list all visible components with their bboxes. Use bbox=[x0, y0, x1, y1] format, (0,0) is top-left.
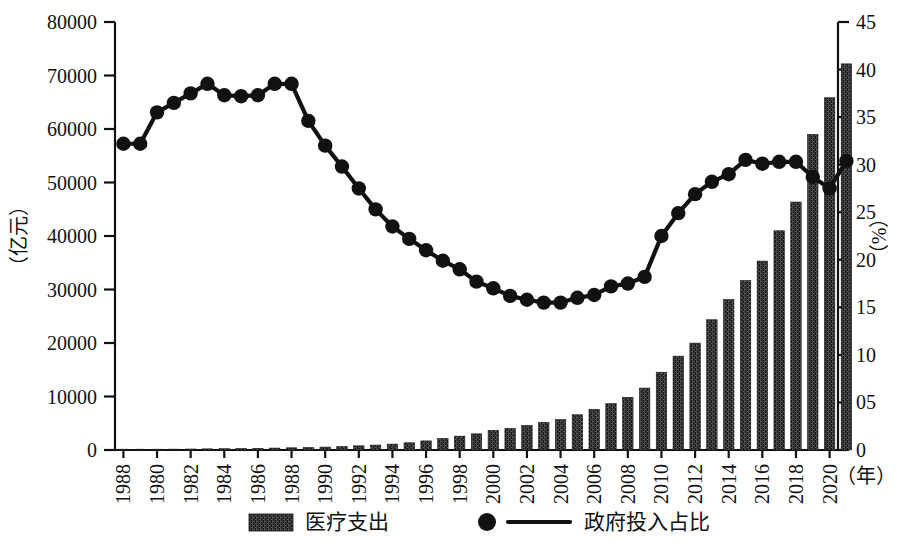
x-tick-label: 2004 bbox=[550, 464, 572, 504]
line-data-point bbox=[688, 187, 702, 201]
x-tick-label: 2014 bbox=[718, 464, 740, 504]
x-tick-label: 2012 bbox=[684, 464, 706, 504]
x-tick-label: 1984 bbox=[213, 464, 235, 504]
bar bbox=[387, 444, 397, 450]
bar bbox=[656, 372, 666, 450]
bar bbox=[673, 356, 683, 450]
legend-label-government-investment-share: 政府投入占比 bbox=[584, 510, 710, 534]
x-tick-label: 1996 bbox=[415, 464, 437, 504]
line-data-point bbox=[436, 254, 450, 268]
line-data-point bbox=[520, 293, 534, 307]
line-data-point bbox=[469, 274, 483, 288]
line-data-point bbox=[503, 289, 517, 303]
bar bbox=[471, 434, 481, 450]
line-data-point bbox=[419, 243, 433, 257]
bar bbox=[152, 449, 162, 450]
bar bbox=[623, 397, 633, 450]
line-data-point bbox=[452, 262, 466, 276]
bar bbox=[185, 449, 195, 450]
x-tick-label: 1982 bbox=[180, 464, 202, 504]
y-tick-label-left: 40000 bbox=[47, 225, 97, 247]
x-tick-label: 2006 bbox=[583, 464, 605, 504]
line-data-point bbox=[587, 288, 601, 302]
y-tick-label-right: 40 bbox=[856, 59, 876, 81]
line-data-point bbox=[537, 295, 551, 309]
line-data-point bbox=[352, 181, 366, 195]
x-tick-label: 1988 bbox=[281, 464, 303, 504]
line-data-point bbox=[755, 157, 769, 171]
bar bbox=[421, 441, 431, 450]
line-data-point bbox=[385, 219, 399, 233]
y-tick-label-left: 10000 bbox=[47, 386, 97, 408]
bar bbox=[438, 438, 448, 450]
line-data-point bbox=[133, 137, 147, 151]
line-data-point bbox=[637, 270, 651, 284]
line-data-point bbox=[368, 202, 382, 216]
bar bbox=[337, 447, 347, 450]
bar bbox=[320, 447, 330, 450]
line-data-point bbox=[839, 154, 853, 168]
x-tick-label: 1988 bbox=[112, 464, 134, 504]
bar bbox=[404, 443, 414, 450]
line-data-point bbox=[671, 206, 685, 220]
line-data-point bbox=[318, 138, 332, 152]
y-axis-title-right: （%） bbox=[868, 208, 890, 265]
bar bbox=[774, 231, 784, 450]
line-data-point bbox=[705, 175, 719, 189]
bar bbox=[723, 300, 733, 450]
legend-label-medical-expenditure: 医疗支出 bbox=[305, 510, 389, 534]
y-tick-label-right: 35 bbox=[856, 106, 876, 128]
x-tick-label: 1986 bbox=[247, 464, 269, 504]
line-data-point bbox=[806, 170, 820, 184]
bar bbox=[488, 430, 498, 450]
line-data-point bbox=[604, 279, 618, 293]
bar-series-medical-expenditure bbox=[118, 64, 851, 450]
y-tick-label-left: 0 bbox=[87, 439, 97, 461]
y-tick-label-right: 30 bbox=[856, 154, 876, 176]
y-tick-label-left: 20000 bbox=[47, 332, 97, 354]
x-tick-label: 2002 bbox=[516, 464, 538, 504]
bar bbox=[555, 420, 565, 450]
line-data-point bbox=[116, 137, 130, 151]
line-data-point bbox=[553, 295, 567, 309]
x-tick-label: 1994 bbox=[381, 464, 403, 504]
bar bbox=[740, 281, 750, 450]
line-data-point bbox=[150, 105, 164, 119]
y-tick-label-right: 05 bbox=[856, 391, 876, 413]
x-axis-title: （年） bbox=[836, 465, 896, 487]
legend-swatch-medical-expenditure bbox=[249, 514, 293, 531]
y-axis-left: 0100002000030000400005000060000700008000… bbox=[47, 11, 115, 461]
bar bbox=[606, 404, 616, 450]
bar bbox=[841, 64, 851, 450]
bar bbox=[639, 388, 649, 450]
line-data-point bbox=[772, 155, 786, 169]
bar bbox=[303, 447, 313, 450]
y-tick-label-left: 50000 bbox=[47, 172, 97, 194]
line-data-point bbox=[570, 291, 584, 305]
line-data-point bbox=[234, 89, 248, 103]
bar bbox=[253, 448, 263, 450]
bar bbox=[118, 449, 128, 450]
bar bbox=[690, 343, 700, 450]
bar bbox=[505, 428, 515, 450]
line-data-point bbox=[738, 153, 752, 167]
bar bbox=[757, 261, 767, 450]
y-tick-label-right: 45 bbox=[856, 11, 876, 33]
legend-dot-government-investment-share bbox=[478, 513, 496, 531]
y-tick-label-right: 15 bbox=[856, 296, 876, 318]
line-data-point bbox=[654, 229, 668, 243]
line-data-point bbox=[200, 77, 214, 91]
line-data-point bbox=[402, 232, 416, 246]
bar bbox=[539, 422, 549, 450]
line-data-point bbox=[335, 159, 349, 173]
line-data-point bbox=[217, 88, 231, 102]
line-data-point bbox=[268, 77, 282, 91]
x-tick-label: 2016 bbox=[751, 464, 773, 504]
bar bbox=[824, 98, 834, 450]
y-axis-title-left: （亿元） bbox=[8, 196, 30, 276]
x-tick-label: 2010 bbox=[650, 464, 672, 504]
bar bbox=[707, 320, 717, 450]
x-tick-label: 1998 bbox=[449, 464, 471, 504]
line-data-point bbox=[251, 88, 265, 102]
line-data-point bbox=[822, 181, 836, 195]
